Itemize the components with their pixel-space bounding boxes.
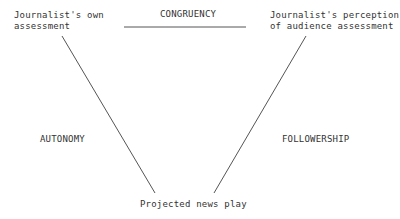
node-journalist-own-assessment: Journalist's own assessment bbox=[14, 10, 104, 32]
autonomy-line bbox=[62, 36, 155, 193]
edge-label-autonomy: AUTONOMY bbox=[40, 134, 85, 145]
followership-line bbox=[214, 36, 306, 193]
node-projected-news-play: Projected news play bbox=[140, 199, 247, 210]
diagram-lines bbox=[0, 0, 400, 219]
edge-label-congruency: CONGRUENCY bbox=[160, 9, 216, 20]
edge-label-followership: FOLLOWERSHIP bbox=[282, 134, 349, 145]
node-audience-assessment: Journalist's perception of audience asse… bbox=[270, 10, 399, 32]
